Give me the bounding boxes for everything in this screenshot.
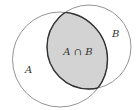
venn-diagram: A B A ∩ B <box>0 0 139 110</box>
set-b-label: B <box>111 28 119 39</box>
set-a-label: A <box>24 64 32 75</box>
intersection-label: A ∩ B <box>62 46 92 57</box>
